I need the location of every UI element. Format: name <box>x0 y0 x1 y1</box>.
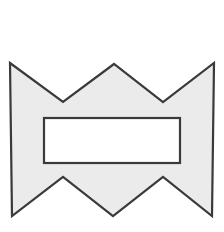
figure-canvas <box>0 0 224 232</box>
shape-svg <box>0 0 224 232</box>
inner-rectangle-hole <box>44 118 180 163</box>
